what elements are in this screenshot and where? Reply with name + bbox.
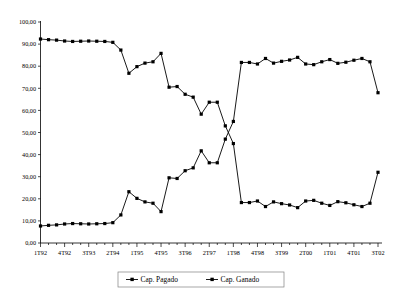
- data-point: [55, 39, 58, 42]
- chart-legend: Cap. PagadoCap. Ganado: [118, 272, 284, 287]
- data-point: [192, 96, 195, 99]
- data-point: [224, 124, 227, 127]
- series-layer: [39, 37, 380, 227]
- x-tick-label: 4T98: [251, 249, 264, 256]
- data-point: [184, 169, 187, 172]
- data-point: [63, 222, 66, 225]
- data-point: [288, 58, 291, 61]
- data-point: [216, 101, 219, 104]
- data-point: [63, 39, 66, 42]
- data-point: [151, 202, 154, 205]
- x-tick-label: 3T99: [275, 249, 288, 256]
- data-point: [368, 202, 371, 205]
- data-point: [167, 176, 170, 179]
- data-point: [216, 161, 219, 164]
- data-point: [264, 57, 267, 60]
- data-point: [320, 60, 323, 63]
- y-tick-label: 0,00: [25, 239, 36, 246]
- data-point: [208, 101, 211, 104]
- data-point: [272, 200, 275, 203]
- line-chart: 0,0010,0020,0030,0040,0050,0060,0070,008…: [0, 0, 400, 299]
- data-point: [352, 203, 355, 206]
- x-tick-label: 3T93: [82, 249, 95, 256]
- data-point: [264, 205, 267, 208]
- data-point: [111, 41, 114, 44]
- data-point: [248, 201, 251, 204]
- data-point: [119, 213, 122, 216]
- series-line-1: [41, 39, 379, 208]
- legend-label-2: Cap. Ganado: [221, 275, 260, 284]
- data-point: [376, 171, 379, 174]
- data-point: [176, 85, 179, 88]
- data-point: [240, 61, 243, 64]
- data-point: [184, 93, 187, 96]
- data-point: [103, 222, 106, 225]
- data-point: [280, 60, 283, 63]
- data-point: [320, 202, 323, 205]
- data-point: [360, 205, 363, 208]
- x-tick-label: 1T95: [130, 249, 143, 256]
- x-tick-label: 4T95: [155, 249, 168, 256]
- legend-label-1: Cap. Pagado: [141, 275, 179, 284]
- data-point: [336, 200, 339, 203]
- data-point: [368, 60, 371, 63]
- x-tick-label: 3T96: [179, 249, 192, 256]
- x-tick-label: 4T92: [58, 249, 71, 256]
- x-tick-label: 1T92: [34, 249, 47, 256]
- y-tick-label: 50,00: [22, 129, 36, 136]
- data-point: [192, 166, 195, 169]
- data-point: [328, 58, 331, 61]
- data-point: [71, 40, 74, 43]
- legend-marker-1: [130, 278, 133, 281]
- x-tick-label: 1T98: [227, 249, 240, 256]
- x-tick-label: 2T00: [299, 249, 312, 256]
- data-point: [200, 149, 203, 152]
- data-point: [135, 197, 138, 200]
- data-point: [208, 161, 211, 164]
- data-point: [47, 38, 50, 41]
- data-point: [296, 206, 299, 209]
- y-tick-label: 90,00: [22, 40, 36, 47]
- x-tick-label: 1T01: [323, 249, 336, 256]
- data-point: [79, 222, 82, 225]
- data-point: [127, 190, 130, 193]
- data-point: [176, 177, 179, 180]
- data-point: [248, 61, 251, 64]
- data-point: [55, 223, 58, 226]
- data-point: [304, 199, 307, 202]
- data-point: [288, 203, 291, 206]
- data-point: [143, 62, 146, 65]
- data-point: [224, 138, 227, 141]
- data-point: [87, 39, 90, 42]
- data-point: [272, 62, 275, 65]
- x-tick-label: 2T94: [106, 249, 119, 256]
- y-tick-label: 10,00: [22, 217, 36, 224]
- data-point: [95, 40, 98, 43]
- x-tick-label: 2T97: [203, 249, 216, 256]
- data-point: [79, 40, 82, 43]
- data-point: [95, 222, 98, 225]
- data-point: [143, 200, 146, 203]
- y-tick-label: 40,00: [22, 151, 36, 158]
- data-point: [280, 202, 283, 205]
- data-point: [328, 204, 331, 207]
- data-point: [167, 86, 170, 89]
- data-point: [127, 72, 130, 75]
- legend-marker-2: [210, 278, 213, 281]
- data-point: [159, 210, 162, 213]
- data-point: [135, 65, 138, 68]
- y-axis: 0,0010,0020,0030,0040,0050,0060,0070,008…: [19, 18, 41, 246]
- data-point: [103, 40, 106, 43]
- data-point: [119, 48, 122, 51]
- y-tick-label: 80,00: [22, 62, 36, 69]
- data-point: [360, 57, 363, 60]
- data-point: [240, 201, 243, 204]
- data-point: [256, 62, 259, 65]
- y-tick-label: 70,00: [22, 85, 36, 92]
- data-point: [376, 91, 379, 94]
- data-point: [159, 52, 162, 55]
- y-tick-label: 100,00: [19, 18, 36, 25]
- y-tick-label: 30,00: [22, 173, 36, 180]
- y-tick-label: 60,00: [22, 107, 36, 114]
- data-point: [39, 37, 42, 40]
